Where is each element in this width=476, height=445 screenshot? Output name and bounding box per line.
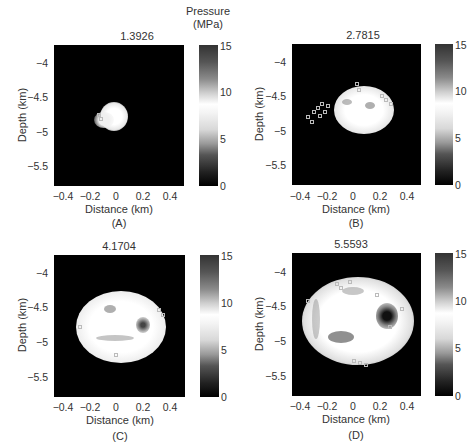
event-marker <box>384 98 388 102</box>
event-marker <box>364 363 368 367</box>
colorbar-tick: 0 <box>220 180 226 192</box>
pressure-drop <box>365 102 375 109</box>
y-axis-label: Depth (km) <box>253 284 265 364</box>
pressure-drop <box>96 335 134 341</box>
colorbar-tick: 5 <box>455 132 461 144</box>
panel-label: (B) <box>336 217 376 229</box>
event-marker <box>316 106 320 110</box>
colorbar-tick: 5 <box>220 133 226 145</box>
panel-title: 4.1704 <box>49 240 189 252</box>
event-marker <box>320 102 324 106</box>
colorbar-tick: 10 <box>220 86 232 98</box>
y-tick: −4 <box>256 266 286 278</box>
pressure-drop <box>104 305 116 313</box>
colorbar-tick: 0 <box>455 390 461 402</box>
heatmap-plot <box>54 255 185 397</box>
panel-title: 5.5593 <box>281 238 421 250</box>
x-tick: 0.4 <box>392 400 422 412</box>
panel-title: 2.7815 <box>293 29 433 41</box>
event-marker <box>312 110 316 114</box>
heatmap-plot <box>292 253 421 396</box>
colorbar-tick: 0 <box>455 179 461 191</box>
colorbar <box>435 44 453 185</box>
y-tick: −4 <box>18 57 48 69</box>
event-marker <box>99 117 103 121</box>
event-marker <box>352 359 356 363</box>
event-marker <box>375 293 379 297</box>
event-marker <box>357 88 361 92</box>
event-marker <box>310 120 314 124</box>
colorbar-tick: 15 <box>220 40 232 52</box>
x-tick: 0.2 <box>128 401 158 413</box>
heatmap-plot <box>292 44 421 185</box>
y-axis-label: Depth (km) <box>16 285 28 365</box>
pressure-front <box>76 291 166 363</box>
event-marker <box>157 308 161 312</box>
event-marker <box>339 286 343 290</box>
panel-label: (C) <box>100 430 140 442</box>
event-marker <box>358 361 362 365</box>
y-axis-label: Depth (km) <box>253 74 265 154</box>
x-axis-label: Distance (km) <box>286 203 426 215</box>
event-marker <box>389 102 393 106</box>
event-marker <box>306 299 310 303</box>
pressure-front <box>334 86 394 134</box>
colorbar-tick: 5 <box>455 342 461 354</box>
colorbar-label-line1: Pressure <box>178 5 238 18</box>
panel-label: (A) <box>99 217 139 229</box>
event-marker <box>355 82 359 86</box>
y-tick: −5.5 <box>18 371 48 383</box>
colorbar <box>199 45 218 186</box>
colorbar-tick: 10 <box>455 295 467 307</box>
y-tick: −4 <box>256 56 286 68</box>
colorbar-tick: 15 <box>455 248 467 260</box>
x-axis-label: Distance (km) <box>286 413 426 425</box>
x-tick: 0.2 <box>365 190 395 202</box>
colorbar-tick: 5 <box>221 344 227 356</box>
x-tick: −0.4 <box>48 401 78 413</box>
colorbar-tick: 0 <box>221 391 227 403</box>
event-marker <box>161 313 165 317</box>
pressure-drop <box>328 331 354 343</box>
event-marker <box>348 280 352 284</box>
x-tick: −0.4 <box>285 400 315 412</box>
event-marker <box>306 115 310 119</box>
x-tick: −0.4 <box>48 190 78 202</box>
y-axis-label: Depth (km) <box>16 75 28 155</box>
x-tick: 0.4 <box>392 190 422 202</box>
colorbar <box>200 255 219 397</box>
event-marker <box>114 353 118 357</box>
x-tick: 0.2 <box>128 190 158 202</box>
x-tick: 0.2 <box>365 400 395 412</box>
colorbar <box>435 253 453 396</box>
heatmap-plot <box>54 45 184 186</box>
pressure-drop <box>342 287 364 295</box>
x-axis-label: Distance (km) <box>49 203 189 215</box>
y-tick: −5.5 <box>18 160 48 172</box>
panel-label: (D) <box>336 429 376 441</box>
pressure-drop <box>376 303 398 329</box>
event-marker <box>400 307 404 311</box>
event-marker <box>318 114 322 118</box>
x-tick: −0.4 <box>285 190 315 202</box>
x-tick: 0.4 <box>155 190 185 202</box>
event-marker <box>388 325 392 329</box>
y-tick: −5.5 <box>256 370 286 382</box>
x-tick: 0 <box>338 190 368 202</box>
event-marker <box>323 110 327 114</box>
x-axis-label: Distance (km) <box>50 414 190 426</box>
colorbar-tick: 15 <box>455 39 467 51</box>
x-tick: 0 <box>101 190 131 202</box>
colorbar-tick: 10 <box>455 85 467 97</box>
colorbar-tick: 15 <box>221 250 233 262</box>
pressure-drop <box>312 299 320 339</box>
y-tick: −5.5 <box>256 159 286 171</box>
x-tick: 0 <box>338 400 368 412</box>
colorbar-label: Pressure (MPa) <box>178 5 238 31</box>
event-marker <box>78 325 82 329</box>
y-tick: −4 <box>18 267 48 279</box>
panel-title: 1.3926 <box>67 30 207 42</box>
colorbar-tick: 10 <box>221 297 233 309</box>
x-tick: 0.4 <box>155 401 185 413</box>
pressure-drop <box>342 99 352 105</box>
